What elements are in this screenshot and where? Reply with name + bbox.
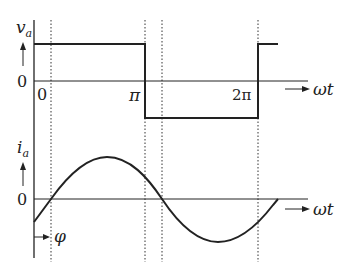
ia-arrowhead-icon	[20, 162, 26, 170]
va-label: va	[16, 17, 32, 40]
waveform-diagram: va 0 0 π 2π ωt ia 0 ωt φ	[0, 0, 349, 270]
bottom-wt-label: ωt	[313, 199, 334, 219]
tick-label-pi: π	[128, 85, 141, 105]
phi-label: φ	[54, 226, 66, 246]
tick-label-0: 0	[37, 85, 47, 104]
ia-label: ia	[17, 137, 29, 160]
bottom-wt-arrowhead-icon	[302, 206, 310, 212]
tick-label-2pi: 2π	[232, 86, 252, 104]
top-wt-label: ωt	[313, 79, 334, 99]
top-wt-arrowhead-icon	[302, 86, 310, 92]
top-zero-label: 0	[17, 72, 27, 91]
phi-arrowhead-icon	[43, 234, 50, 240]
diagram-canvas: va 0 0 π 2π ωt ia 0 ωt φ	[0, 0, 349, 270]
bottom-zero-label: 0	[17, 190, 27, 209]
dotted-guides	[51, 20, 258, 262]
va-arrowhead-icon	[20, 42, 26, 50]
